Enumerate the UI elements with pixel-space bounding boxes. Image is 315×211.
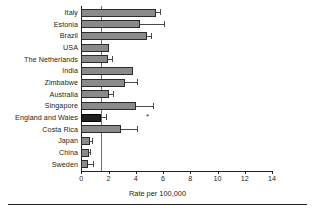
error-bar-cap-upper [137,79,138,85]
bar [81,114,101,122]
x-axis-tick-label: 0 [71,175,91,183]
bar-row [81,65,272,76]
x-axis-tick-label: 12 [235,175,255,183]
bar [81,125,120,133]
bar [81,149,89,157]
bar-row [81,100,272,111]
bar-row [81,124,272,135]
x-axis-line [81,171,272,172]
y-axis-label: Sweden [0,161,78,168]
x-axis-tick-label: 4 [126,175,146,183]
y-axis-label: Zimbabwe [0,79,78,86]
bar-row [81,147,272,158]
y-axis-label: India [0,67,78,74]
bar-row [81,89,272,100]
y-axis-label: Brazil [0,32,78,39]
y-axis-label: Singapore [0,102,78,109]
x-axis-tick-label: 2 [99,175,119,183]
bar-row [81,54,272,65]
error-bar-cap-upper [153,103,154,109]
error-bar-cap-upper [164,21,165,27]
error-bar-upper [136,106,152,107]
y-axis-label: China [0,149,78,156]
x-axis-tick-label: 10 [208,175,228,183]
x-axis-tick-label: 14 [262,175,282,183]
chart-plot-area: * ItalyEstoniaBrazilUSAThe NetherlandsIn… [0,0,315,211]
bar-row [81,19,272,30]
error-bar-cap-upper [90,149,91,155]
y-axis-label: Japan [0,137,78,144]
bar-row [81,77,272,88]
y-axis-label: Estonia [0,21,78,28]
y-axis-label: Costa Rica [0,126,78,133]
bar [81,67,133,75]
error-bar-cap-upper [112,56,113,62]
bar [81,79,125,87]
significance-asterisk: * [146,113,149,121]
bar [81,9,155,17]
error-bar-cap-upper [137,126,138,132]
error-bar-upper [140,24,165,25]
error-bar-cap-upper [151,33,152,39]
y-axis-label: The Netherlands [0,56,78,63]
bar [81,32,146,40]
error-bar-upper [125,82,137,83]
bar-row [81,135,272,146]
x-axis-title: Rate per 100,000 [0,189,315,198]
bar [81,90,108,98]
y-axis-label: USA [0,44,78,51]
bar [81,44,108,52]
figure: * ItalyEstoniaBrazilUSAThe NetherlandsIn… [0,0,315,211]
error-bar-cap-upper [113,91,114,97]
error-bar-cap-upper [93,161,94,167]
bar-row [81,159,272,170]
bar [81,102,136,110]
x-axis-tick-label: 6 [153,175,173,183]
bar-row [81,7,272,18]
bar-row [81,30,272,41]
bar [81,160,88,168]
error-bar-cap-upper [92,138,93,144]
footer-rule [8,204,307,205]
y-axis-label: Australia [0,91,78,98]
y-axis-label: Italy [0,9,78,16]
bar [81,55,108,63]
y-axis-label: England and Wales [0,114,78,121]
bar [81,137,90,145]
error-bar-cap-upper [160,9,161,15]
x-axis-tick-label: 8 [180,175,200,183]
bar [81,20,140,28]
error-bar-upper [121,129,137,130]
bar-row [81,112,272,123]
bar-row [81,42,272,53]
error-bar-cap-upper [106,114,107,120]
